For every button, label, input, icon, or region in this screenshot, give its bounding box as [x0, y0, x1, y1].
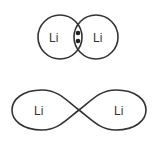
shared-electron-dot: [76, 39, 81, 44]
atom-label-left: Li: [49, 31, 58, 45]
figure-eight-orbital-diagram: Li Li: [12, 90, 146, 130]
atom-label-left: Li: [34, 104, 43, 118]
overlapping-circles-diagram: Li Li: [38, 15, 118, 59]
left-atom-circle: [38, 15, 82, 59]
shared-electron-dot: [76, 31, 81, 36]
orbital-lobes: [12, 90, 146, 130]
li2-bonding-diagram: Li Li Li Li: [0, 0, 157, 143]
atom-label-right: Li: [93, 31, 102, 45]
atom-label-right: Li: [114, 104, 123, 118]
